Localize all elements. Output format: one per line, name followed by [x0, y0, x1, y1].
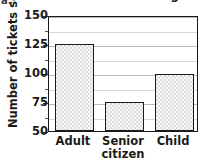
plot-area	[48, 16, 198, 132]
x-tick-label: Child	[148, 135, 198, 148]
bar-chart-figure: a. Movie Screening Number of tickets sol…	[0, 0, 208, 167]
bar-series	[49, 17, 197, 131]
bar	[105, 102, 144, 131]
x-tick-label: Seniorcitizen	[98, 135, 148, 160]
bar	[155, 74, 194, 131]
x-tick-label: Adult	[48, 135, 98, 148]
bar	[55, 44, 94, 131]
y-tick-mark	[43, 132, 48, 133]
